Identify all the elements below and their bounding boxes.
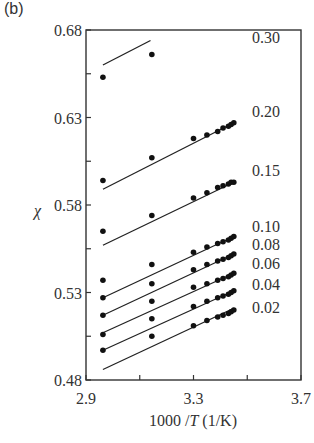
data-point	[231, 251, 237, 257]
data-point	[204, 132, 210, 138]
data-point	[149, 316, 155, 322]
data-point	[220, 256, 226, 262]
data-point	[220, 239, 226, 245]
data-point	[220, 312, 226, 318]
series-label-0.08: 0.08	[252, 236, 280, 253]
fit-line-0.20	[103, 123, 234, 190]
fit-line-0.02	[103, 308, 234, 369]
fit-line-0.15	[103, 182, 234, 245]
axis-ticks: 0.480.530.580.630.682.93.33.7	[54, 22, 311, 407]
data-point	[204, 190, 210, 196]
x-tick-label: 2.9	[76, 390, 96, 407]
data-point	[191, 284, 197, 290]
data-point	[191, 249, 197, 255]
series-label-0.10: 0.10	[252, 218, 280, 235]
data-point	[231, 288, 237, 294]
data-point	[149, 52, 155, 58]
data-point	[191, 136, 197, 142]
fit-line-0.04	[103, 291, 234, 351]
series-labels: 0.300.200.150.100.080.060.040.02	[252, 29, 280, 316]
series-label-0.15: 0.15	[252, 162, 280, 179]
y-tick-label: 0.53	[54, 285, 82, 302]
series-label-0.04: 0.04	[252, 276, 280, 293]
series-label-0.06: 0.06	[252, 255, 280, 272]
data-point	[231, 270, 237, 276]
data-point	[100, 312, 106, 318]
y-tick-label: 0.58	[54, 197, 82, 214]
data-points	[100, 52, 236, 353]
data-point	[191, 267, 197, 273]
x-axis-title: 1000 /T (1/K)	[149, 412, 237, 430]
chi-vs-inverse-temperature-chart: 0.480.530.580.630.682.93.33.7 0.300.200.…	[0, 0, 314, 443]
data-point	[100, 332, 106, 338]
data-point	[100, 347, 106, 353]
data-point	[149, 281, 155, 287]
y-tick-label: 0.48	[54, 372, 82, 389]
data-point	[149, 213, 155, 219]
data-point	[100, 277, 106, 283]
fit-line-0.08	[103, 254, 234, 315]
data-point	[204, 298, 210, 304]
fit-line-0.10	[103, 237, 234, 298]
series-label-0.02: 0.02	[252, 299, 280, 316]
data-point	[220, 183, 226, 189]
data-point	[204, 262, 210, 268]
data-point	[149, 155, 155, 161]
data-point	[220, 293, 226, 299]
data-point	[215, 185, 221, 191]
fit-line-0.30	[103, 41, 151, 66]
data-point	[215, 258, 221, 264]
data-point	[100, 178, 106, 184]
data-point	[215, 314, 221, 320]
data-point	[149, 262, 155, 268]
y-tick-label: 0.63	[54, 110, 82, 127]
x-tick-label: 3.3	[184, 390, 204, 407]
data-point	[191, 323, 197, 329]
data-point	[215, 241, 221, 247]
data-point	[191, 195, 197, 201]
y-axis-title: χ	[32, 202, 42, 220]
data-point	[204, 244, 210, 250]
data-point	[220, 276, 226, 282]
data-point	[215, 129, 221, 135]
data-point	[149, 298, 155, 304]
data-point	[204, 281, 210, 287]
data-point	[231, 234, 237, 240]
fit-lines	[103, 41, 234, 370]
data-point	[231, 179, 237, 185]
data-point	[215, 277, 221, 283]
fit-line-0.06	[103, 273, 234, 333]
series-label-0.20: 0.20	[252, 103, 280, 120]
data-point	[204, 318, 210, 324]
x-tick-label: 3.7	[291, 390, 311, 407]
data-point	[220, 125, 226, 131]
data-point	[100, 74, 106, 80]
data-point	[215, 295, 221, 301]
data-point	[100, 295, 106, 301]
data-point	[231, 120, 237, 126]
y-tick-label: 0.68	[54, 22, 82, 39]
series-label-0.30: 0.30	[252, 29, 280, 46]
data-point	[100, 228, 106, 234]
data-point	[191, 304, 197, 310]
data-point	[231, 307, 237, 313]
data-point	[149, 333, 155, 339]
